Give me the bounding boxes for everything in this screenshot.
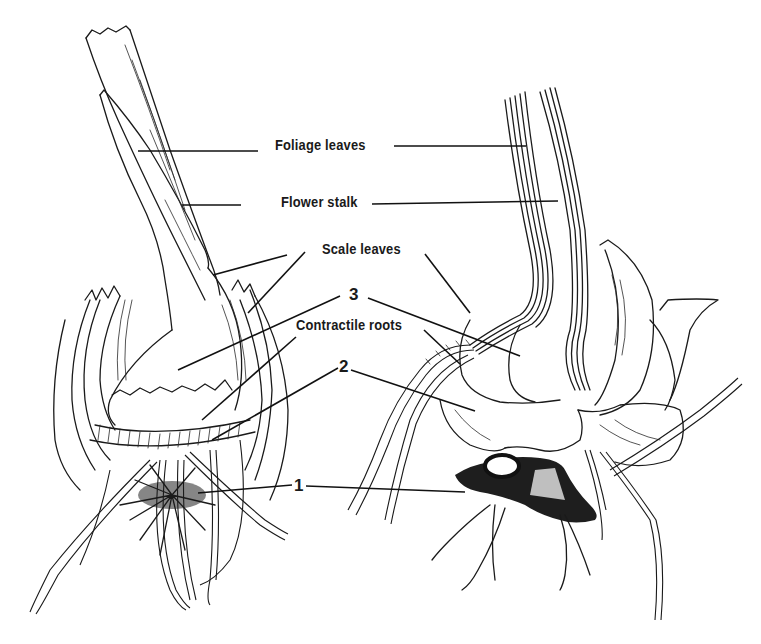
label-scale-leaves: Scale leaves — [322, 240, 401, 257]
label-number-2: 2 — [339, 357, 349, 377]
label-foliage-leaves: Foliage leaves — [275, 136, 366, 153]
old-corm — [455, 455, 597, 523]
label-number-3: 3 — [349, 285, 359, 305]
label-number-1: 1 — [294, 476, 304, 496]
label-contractile-roots: Contractile roots — [296, 316, 402, 333]
bulb-diagram: Foliage leaves Flower stalk Scale leaves… — [0, 0, 761, 644]
right-bulb-section — [348, 88, 742, 620]
basal-plate — [120, 465, 215, 555]
left-bulb-drawing — [30, 26, 288, 614]
label-flower-stalk: Flower stalk — [281, 193, 358, 210]
